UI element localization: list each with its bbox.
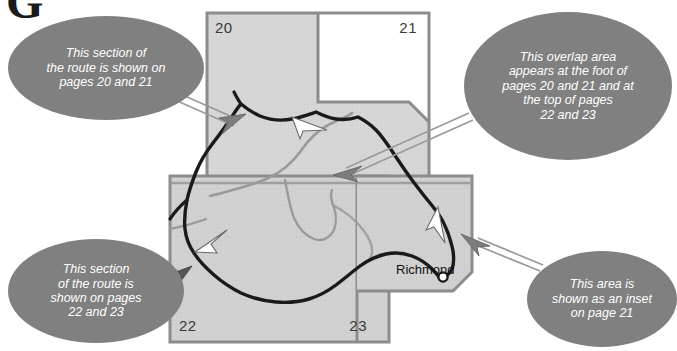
callout-inset-page-21: This area is shown as an inset on page 2… [527, 251, 677, 347]
place-label-richmond: Richmond [396, 262, 455, 277]
callout-overlap-area: This overlap area appears at the foot of… [464, 12, 672, 160]
page-number-21: 21 [399, 19, 417, 36]
page-box-21: 21 [207, 13, 429, 183]
page-box-23: 23 [170, 176, 389, 342]
page-number-23: 23 [349, 317, 367, 334]
callout-pages-20-21: This section of the route is shown on pa… [8, 16, 204, 120]
callout-pages-22-23: This section of the route is shown on pa… [8, 239, 184, 343]
